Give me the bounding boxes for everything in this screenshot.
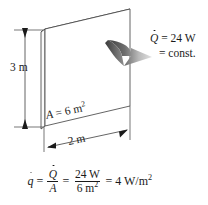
slab-left-face xyxy=(41,29,45,129)
flux-symbol: q xyxy=(28,175,34,187)
heat-rate-const-line: = const. xyxy=(159,48,196,60)
equation-equals-1: = xyxy=(37,175,44,187)
heat-rate-line: Q = 24 W xyxy=(150,33,196,45)
fraction-q-over-a: Q A xyxy=(47,168,59,195)
area-symbol: A xyxy=(45,108,54,121)
area-equals: = xyxy=(54,106,63,119)
heat-rate-value: 24 W xyxy=(171,32,196,44)
height-arrowhead-top xyxy=(22,28,28,38)
flux-equation: q = Q A = 24 W 6 m2 = 4 W/m2 xyxy=(26,168,154,195)
fraction1-numerator: Q xyxy=(47,168,59,181)
width-arrowhead-left xyxy=(47,143,56,149)
fraction2-numerator: 24 W xyxy=(73,168,102,181)
fraction2-denominator: 6 m2 xyxy=(75,181,100,195)
q-dot-symbol: Q xyxy=(150,33,158,45)
width-dimension-line xyxy=(48,130,127,147)
equation-equals-3: = xyxy=(105,175,112,187)
heat-rate-equals: = xyxy=(161,32,168,44)
heat-rate-callout: Q = 24 W = const. xyxy=(150,33,196,59)
fraction1-denominator: A xyxy=(47,181,58,195)
height-arrowhead-bottom xyxy=(22,119,28,129)
equation-equals-2: = xyxy=(63,175,70,187)
height-label: 3 m xyxy=(10,62,28,74)
equation-result: 4 W/m2 xyxy=(115,175,152,187)
figure-canvas: 3 m Q = 24 W = const. A = 6 m2 2 m q = Q… xyxy=(0,0,208,205)
width-arrowhead-right xyxy=(119,130,128,138)
fraction-24w-over-6m2: 24 W 6 m2 xyxy=(73,168,102,195)
